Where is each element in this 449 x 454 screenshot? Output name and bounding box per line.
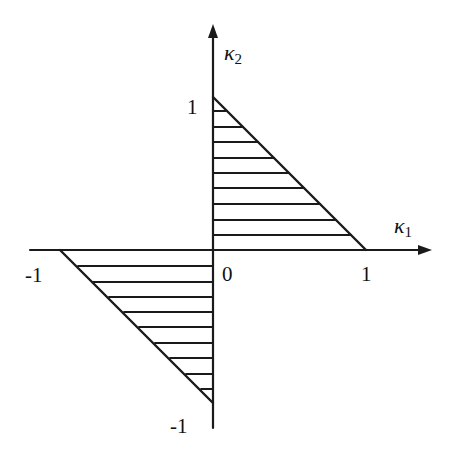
y-axis-label-subscript: 2 (235, 51, 243, 67)
diagram-canvas (0, 0, 449, 454)
lower-triangle-hatching (78, 266, 213, 389)
y-axis-arrow-icon (208, 24, 218, 38)
x-axis-label: κ1 (394, 215, 412, 240)
y-axis-label: κ2 (224, 42, 242, 67)
x-axis-label-subscript: 1 (405, 224, 413, 240)
tick-label-y-neg: -1 (170, 416, 188, 437)
tick-label-x-neg: -1 (25, 265, 43, 286)
upper-triangle-hatching (213, 111, 351, 235)
tick-label-y-pos: 1 (187, 97, 198, 118)
y-axis-label-text: κ (224, 40, 235, 65)
x-axis-arrow-icon (418, 245, 432, 255)
x-axis-label-text: κ (394, 213, 405, 238)
tick-label-x-pos: 1 (361, 264, 372, 285)
tick-label-origin: 0 (222, 264, 233, 285)
